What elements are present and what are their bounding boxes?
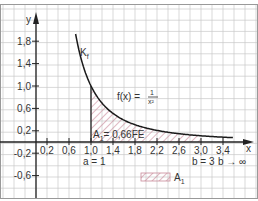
annotation-b-limit: b → ∞ bbox=[218, 156, 246, 167]
y-axis-arrow-icon bbox=[33, 12, 39, 24]
y-tick-label: 1,8 bbox=[17, 36, 31, 47]
x-tick-label: 3,4 bbox=[216, 145, 230, 156]
x-axis-label: x bbox=[246, 143, 251, 154]
legend: A1 bbox=[141, 172, 185, 185]
x-tick-label: 2,2 bbox=[150, 145, 164, 156]
x-tick-label: 1,0 bbox=[84, 145, 98, 156]
svg-text:f(x) =: f(x) = bbox=[117, 91, 140, 102]
y-tick-label: -0,2 bbox=[14, 148, 32, 159]
x-tick-label: 0,6 bbox=[62, 145, 76, 156]
svg-text:1: 1 bbox=[150, 89, 154, 96]
svg-text:x²: x² bbox=[148, 98, 155, 105]
x-tick-label: 1,8 bbox=[128, 145, 142, 156]
y-tick-label: 1,4 bbox=[17, 58, 31, 69]
x-tick-label: 0,2 bbox=[40, 145, 54, 156]
function-area-diagram: 0,20,61,01,41,82,22,63,03,41,81,41,00,60… bbox=[0, 0, 258, 201]
annotation-a: a = 1 bbox=[83, 156, 106, 167]
x-tick-label: 2,6 bbox=[172, 145, 186, 156]
x-tick-label: 1,4 bbox=[106, 145, 120, 156]
y-tick-label: 0,2 bbox=[17, 125, 31, 136]
y-tick-label: -0,6 bbox=[14, 170, 32, 181]
x-tick-label: 3,0 bbox=[194, 145, 208, 156]
diagram-canvas: 0,20,61,01,41,82,22,63,03,41,81,41,00,60… bbox=[0, 0, 258, 201]
y-tick-label: 0,6 bbox=[17, 103, 31, 114]
legend-swatch-hatched bbox=[141, 173, 170, 181]
annotation-b: b = 3 bbox=[192, 156, 215, 167]
y-axis-label: y bbox=[26, 14, 31, 25]
function-formula: f(x) = 1 x² bbox=[117, 89, 158, 105]
y-tick-label: 1,0 bbox=[17, 81, 31, 92]
